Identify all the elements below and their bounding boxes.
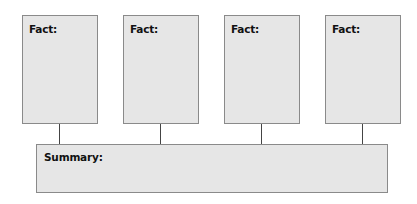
fact-label: Fact:: [231, 23, 259, 35]
connector-line-1: [59, 124, 60, 144]
connector-line-3: [261, 124, 262, 144]
fact-box-2[interactable]: Fact:: [123, 15, 199, 124]
fact-box-4[interactable]: Fact:: [325, 15, 401, 124]
fact-label: Fact:: [332, 23, 360, 35]
connector-line-4: [362, 124, 363, 144]
fact-label: Fact:: [130, 23, 158, 35]
summary-box[interactable]: Summary:: [36, 144, 388, 193]
fact-label: Fact:: [29, 23, 57, 35]
connector-line-2: [160, 124, 161, 144]
summary-label: Summary:: [44, 151, 103, 163]
fact-box-3[interactable]: Fact:: [224, 15, 300, 124]
fact-box-1[interactable]: Fact:: [22, 15, 98, 124]
